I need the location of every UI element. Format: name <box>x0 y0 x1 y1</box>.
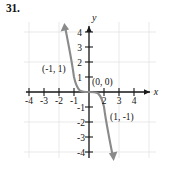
y-tick-label: 4 <box>77 28 82 38</box>
figure-container: 31. <box>0 0 172 170</box>
x-tick-label: -4 <box>25 96 33 106</box>
point-label-neg1-1: (-1, 1) <box>42 64 66 75</box>
curve-arrow-upper-left-icon <box>61 23 70 31</box>
x-tick-label: -3 <box>40 96 48 106</box>
x-tick-label: 3 <box>117 96 122 106</box>
y-tick-label: -1 <box>77 103 85 113</box>
y-tick-label: 2 <box>77 58 82 68</box>
point-label-1-neg1: (1, -1) <box>110 112 134 123</box>
x-axis-label: x <box>153 86 159 97</box>
point-label-origin: (0, 0) <box>92 77 113 88</box>
y-tick-label: 3 <box>77 43 82 53</box>
y-tick-label: 1 <box>77 73 82 83</box>
y-tick-label: -4 <box>77 148 85 158</box>
y-axis-arrow-icon <box>86 26 92 32</box>
coordinate-plot: -4 -3 -2 -1 2 3 4 4 3 2 1 -1 -2 -3 -4 x <box>0 0 172 170</box>
curve-arrow-lower-right-icon <box>109 151 118 161</box>
x-tick-label: 4 <box>132 96 137 106</box>
x-tick-label: -2 <box>55 96 63 106</box>
x-tick-label: 2 <box>102 96 107 106</box>
y-tick-label: -3 <box>77 133 85 143</box>
y-axis-label: y <box>91 12 97 23</box>
y-tick-label: -2 <box>77 118 85 128</box>
graph-svg: -4 -3 -2 -1 2 3 4 4 3 2 1 -1 -2 -3 -4 x <box>0 0 172 170</box>
